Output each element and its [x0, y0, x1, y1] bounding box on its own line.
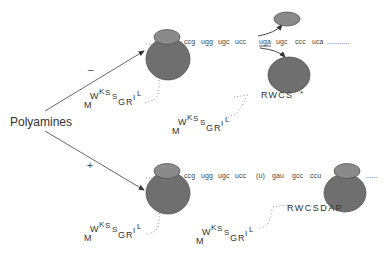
residue: K	[211, 223, 216, 232]
codon: ugg	[201, 172, 213, 179]
residue: R	[238, 233, 245, 243]
trailing-dots: ...........	[327, 38, 350, 45]
stop-marker: *	[300, 89, 303, 98]
codon: gcc	[292, 172, 303, 179]
residue: S	[105, 221, 110, 230]
residue: W	[178, 117, 187, 127]
residue: S	[224, 228, 229, 237]
codon: ugc	[276, 38, 288, 45]
residue: K	[187, 113, 192, 122]
peptide-top-right: M W K S S G R I L	[172, 112, 252, 142]
peptide-top-left: M W K S S G R I L	[84, 86, 164, 116]
codon: ugc	[218, 172, 230, 179]
residue: L	[137, 89, 141, 98]
residue: M	[84, 100, 92, 110]
residue: S	[112, 92, 117, 101]
stop-codon: uga	[259, 38, 271, 45]
codon: gau	[272, 172, 284, 179]
peptide-bottom-left: M W K S S G R I L	[84, 219, 164, 249]
peptide-bottom-right: M W K S S G R I L	[196, 222, 276, 252]
residue: L	[137, 222, 141, 231]
arrow-plus	[45, 131, 144, 190]
residue: M	[196, 236, 204, 246]
residue: W	[90, 224, 99, 234]
residue: S	[200, 118, 205, 127]
residue: I	[133, 93, 135, 102]
residue: I	[245, 229, 247, 238]
residue: R	[126, 230, 133, 240]
peptide-c-terminus-top: RWCS	[261, 90, 293, 100]
residue: K	[99, 220, 104, 229]
skipped-base: (u)	[256, 172, 265, 179]
residue: L	[225, 115, 229, 124]
residue: W	[90, 91, 99, 101]
released-small-subunit	[274, 12, 300, 26]
residue: G	[206, 123, 213, 133]
residue: I	[133, 226, 135, 235]
codon: ucc	[235, 172, 246, 179]
polyamines-label: Polyamines	[10, 115, 72, 129]
codon: ugg	[201, 38, 213, 45]
residue: G	[118, 97, 125, 107]
codon: ugc	[218, 38, 230, 45]
codon: ccu	[310, 172, 321, 179]
codon: ccg	[184, 38, 195, 45]
residue: W	[202, 227, 211, 237]
codon: ccc	[295, 38, 306, 45]
residue: K	[99, 87, 104, 96]
residue: S	[105, 88, 110, 97]
residue: G	[118, 230, 125, 240]
residue: M	[84, 233, 92, 243]
trailing-dots: ......	[365, 172, 377, 179]
residue: I	[221, 119, 223, 128]
residue: R	[126, 97, 133, 107]
plus-sign: +	[87, 160, 93, 171]
minus-sign: –	[88, 64, 94, 75]
release-arrow-small-subunit	[258, 25, 282, 36]
residue: M	[172, 126, 180, 136]
codon: ucc	[235, 38, 246, 45]
release-arrow-large-subunit	[260, 48, 285, 57]
peptide-c-terminus-bottom: RWCSDAP	[287, 203, 343, 213]
released-large-subunit	[268, 57, 310, 93]
residue: S	[112, 225, 117, 234]
residue: G	[230, 233, 237, 243]
residue: R	[214, 123, 221, 133]
codon: uca	[312, 38, 324, 45]
residue: L	[249, 225, 253, 234]
residue: S	[217, 224, 222, 233]
residue: S	[193, 114, 198, 123]
codon: ccg	[184, 172, 195, 179]
